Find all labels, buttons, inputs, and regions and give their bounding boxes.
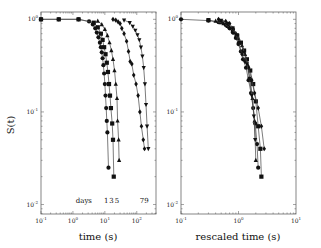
diamond-marker — [122, 31, 126, 36]
y-axis-label: S(t) — [5, 116, 16, 135]
circle-marker — [105, 119, 109, 123]
triangle-down-marker — [144, 103, 148, 107]
square-marker — [107, 82, 111, 86]
triangle-up-marker — [115, 118, 119, 122]
circle-marker — [96, 35, 100, 39]
y-tick-label: 100 — [28, 14, 39, 22]
diamond-marker — [111, 17, 115, 22]
triangle-down-marker — [143, 82, 147, 86]
triangle-down-marker — [140, 54, 144, 58]
x-axis-label-left: time (s) — [79, 231, 118, 242]
square-marker — [259, 175, 263, 179]
x-tick-label: 10-1 — [35, 216, 47, 224]
triangle-down-marker — [139, 46, 143, 50]
square-marker — [206, 18, 210, 22]
diamond-marker — [136, 93, 140, 98]
diamond-marker — [262, 146, 266, 151]
triangle-up-marker — [107, 40, 111, 44]
series-3-days — [206, 18, 263, 179]
annotation-label: 79 — [140, 197, 149, 205]
circle-marker — [95, 30, 99, 34]
triangle-up-marker — [96, 18, 100, 22]
y-tick-label: 10-2 — [166, 200, 178, 208]
y-tick-label: 10-1 — [26, 107, 38, 115]
circle-marker — [103, 82, 107, 86]
diamond-marker — [143, 146, 147, 151]
circle-marker — [103, 94, 107, 98]
square-marker — [76, 17, 80, 21]
y-tick-label: 10-2 — [26, 200, 38, 208]
triangle-up-marker — [105, 33, 109, 37]
circle-marker — [100, 50, 104, 54]
triangle-up-marker — [100, 22, 104, 26]
circle-marker — [179, 17, 183, 21]
triangle-down-marker — [135, 33, 139, 37]
diamond-marker — [140, 124, 144, 129]
square-marker — [57, 17, 61, 21]
diamond-marker — [120, 26, 124, 31]
square-marker — [111, 138, 115, 142]
circle-marker — [106, 166, 110, 170]
triangle-up-marker — [109, 48, 113, 52]
triangle-up-marker — [117, 158, 121, 162]
figure: 10-110010110210010-110-2days13579 10-110… — [0, 0, 321, 248]
triangle-down-marker — [133, 29, 137, 33]
square-marker — [112, 175, 116, 179]
y-tick-label: 10-1 — [166, 107, 178, 115]
circle-marker — [256, 166, 260, 170]
x-tick-label: 100 — [68, 216, 79, 224]
triangle-up-marker — [112, 68, 116, 72]
x-tick-label: 101 — [291, 216, 301, 224]
triangle-down-marker — [137, 38, 141, 42]
square-marker — [109, 106, 113, 110]
triangle-up-marker — [115, 96, 119, 100]
triangle-up-marker — [114, 82, 118, 86]
x-tick-label: 10-1 — [175, 216, 187, 224]
diamond-marker — [132, 72, 136, 77]
square-marker — [258, 147, 262, 151]
square-marker — [39, 17, 43, 21]
annotation-label: 3 — [109, 197, 113, 205]
triangle-down-marker — [146, 147, 150, 151]
circle-marker — [100, 56, 104, 60]
x-tick-label: 101 — [100, 216, 110, 224]
square-marker — [102, 45, 106, 49]
series-1-day — [39, 17, 111, 170]
annotation-label: days — [76, 197, 93, 205]
diamond-marker — [138, 109, 142, 114]
circle-marker — [104, 106, 108, 110]
square-marker — [110, 121, 114, 125]
triangle-down-marker — [142, 66, 146, 70]
square-marker — [106, 70, 110, 74]
square-marker — [108, 94, 112, 98]
diamond-marker — [134, 81, 138, 86]
series-3-days — [39, 17, 116, 179]
diamond-marker — [127, 49, 131, 54]
diamond-marker — [141, 137, 145, 142]
square-marker — [92, 21, 96, 25]
square-marker — [103, 52, 107, 56]
triangle-down-marker — [252, 114, 256, 118]
x-tick-label: 102 — [132, 216, 143, 224]
plot-panel-rescaled: 10-110010110010-110-2 — [166, 12, 301, 224]
x-tick-label: 100 — [233, 216, 244, 224]
annotation-label: 1 — [104, 197, 108, 205]
circle-marker — [105, 130, 109, 134]
square-marker — [96, 25, 100, 29]
diamond-marker — [125, 39, 129, 44]
triangle-up-marker — [117, 137, 121, 141]
series-1-day — [179, 17, 260, 170]
triangle-up-marker — [111, 57, 115, 61]
x-axis-label-right: rescaled time (s) — [196, 231, 281, 242]
triangle-up-marker — [254, 158, 258, 162]
square-marker — [105, 61, 109, 65]
plot-panel-survival: 10-110010110210010-110-2days13579 — [26, 12, 156, 224]
square-marker — [99, 32, 103, 36]
annotation-label: 5 — [115, 197, 119, 205]
y-tick-label: 100 — [168, 14, 179, 22]
triangle-down-marker — [145, 125, 149, 129]
square-marker — [100, 38, 104, 42]
circle-marker — [102, 71, 106, 75]
